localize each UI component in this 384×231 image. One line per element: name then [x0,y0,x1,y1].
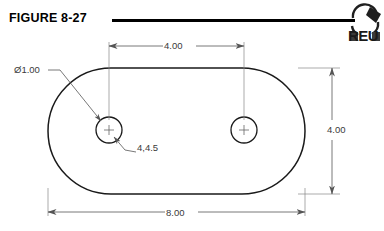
left-hole [96,117,122,143]
technical-drawing-canvas [0,0,384,231]
dimension-hole-spacing [109,42,244,120]
figure-page: FIGURE 8-27 REU [0,0,384,231]
hole-note-label: 4,4.5 [137,142,158,153]
leader-diameter-callout [48,70,101,121]
dimension-label-overall-height: 4.00 [327,124,346,135]
dimension-label-overall-width: 8.00 [166,207,185,218]
right-hole [231,117,257,143]
dimension-label-hole-spacing: 4.00 [164,40,183,51]
diameter-callout-label: Ø1.00 [14,64,40,75]
slot-outline [48,68,305,194]
